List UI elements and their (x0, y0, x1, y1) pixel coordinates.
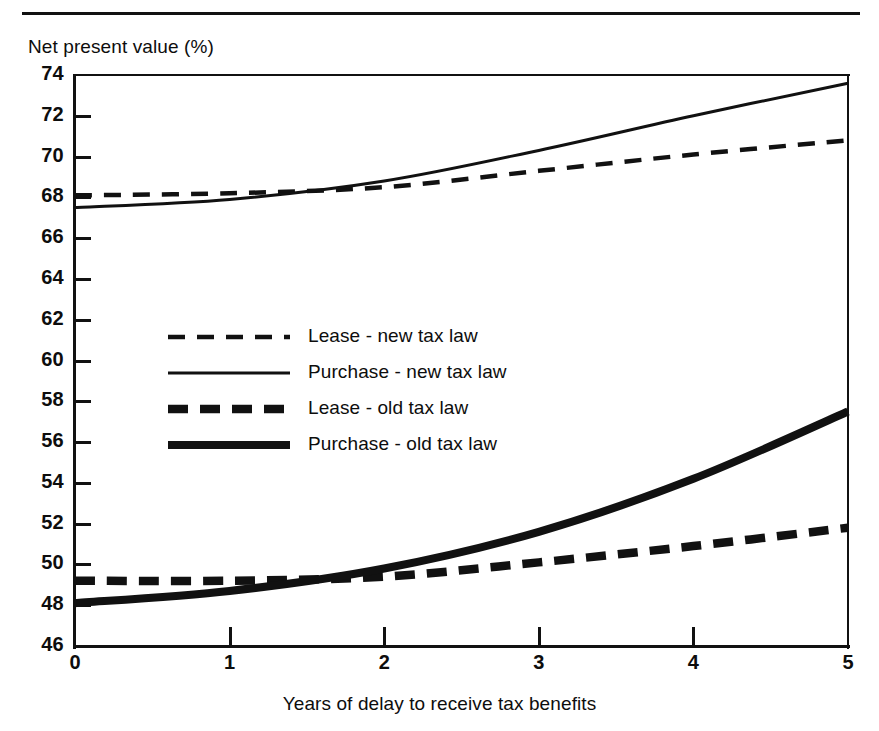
legend-line-swatch (168, 402, 290, 414)
legend-item[interactable]: Purchase - new tax law (168, 354, 588, 390)
legend-line-swatch (168, 330, 290, 342)
legend-label: Lease - new tax law (308, 325, 478, 347)
legend-label: Lease - old tax law (308, 397, 468, 419)
chart-legend: Lease - new tax lawPurchase - new tax la… (168, 318, 588, 462)
legend-item[interactable]: Purchase - old tax law (168, 426, 588, 462)
series-line (75, 83, 848, 207)
legend-label: Purchase - new tax law (308, 361, 507, 383)
legend-label: Purchase - old tax law (308, 433, 497, 455)
legend-item[interactable]: Lease - old tax law (168, 390, 588, 426)
x-axis-title: Years of delay to receive tax benefits (0, 693, 879, 715)
legend-item[interactable]: Lease - new tax law (168, 318, 588, 354)
legend-line-swatch (168, 366, 290, 378)
chart-figure: Net present value (%) 747270686664626058… (0, 0, 879, 731)
legend-line-swatch (168, 438, 290, 450)
